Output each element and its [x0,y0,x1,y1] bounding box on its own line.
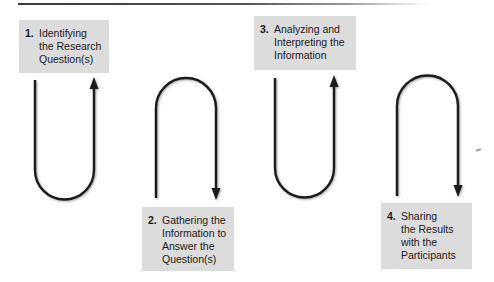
step-label-line: Answer the [162,240,226,253]
step-number: 3. [260,23,274,64]
arch-connector-4-down-arrow [397,76,463,198]
arrowhead-down-icon [212,188,221,200]
step-label-line: Information [274,49,345,62]
step-label-line: Analyzing and [274,23,345,36]
step-label-line: the Research [39,40,101,53]
step-label-line: Information to [162,227,226,240]
step-label-line: Question(s) [162,253,226,266]
step-label-line: Gathering the [162,214,226,227]
step-box-2-gathering-information: 2. Gathering the Information to Answer t… [142,207,234,271]
step-label-line: the Results [401,223,456,236]
step-number: 4. [387,210,401,263]
step-label-line: Identifying [39,27,101,40]
step-number: 1. [25,27,39,67]
arrowhead-down-icon [454,185,463,197]
arch-connector-2-down-arrow [156,78,221,200]
step-label-line: Interpreting the [274,36,345,49]
arrowhead-up-icon [330,75,339,87]
step-box-1-identifying-research-question: 1. Identifying the Research Question(s) [19,20,109,73]
step-label-line: Participants [401,249,456,262]
step-box-3-analyzing-interpreting: 3. Analyzing and Interpreting the Inform… [254,16,356,70]
step-number: 2. [148,214,162,265]
step-label-line: Sharing [401,210,456,223]
u-connector-1-up-arrow [35,77,99,200]
u-connector-3-up-arrow [275,75,339,198]
arrowhead-up-icon [90,77,99,89]
step-label-line: with the [401,236,456,249]
step-label-line: Question(s) [39,53,101,66]
step-box-4-sharing-results: 4. Sharing the Results with the Particip… [381,203,472,269]
